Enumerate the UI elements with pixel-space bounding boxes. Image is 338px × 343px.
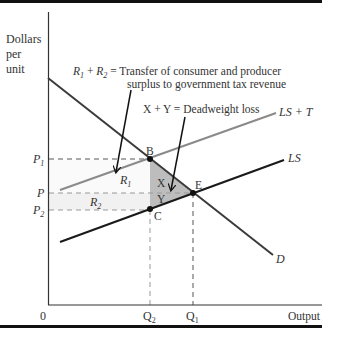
price-label-p2: P2: [32, 203, 44, 219]
y-axis-label-line3: unit: [6, 62, 25, 76]
x-axis-label: Output: [288, 310, 321, 323]
y-axis-label-line1: Dollars: [6, 32, 42, 46]
point-e-label: E: [195, 179, 202, 191]
transfer-arrow-icon: [116, 90, 131, 172]
origin-label: 0: [40, 309, 46, 323]
tax-incidence-diagram: Dollars per unit P1 P P2 0 Q2 Q1 Output …: [0, 0, 338, 343]
quantity-label-q2: Q2: [143, 309, 156, 325]
price-label-p: P: [36, 186, 45, 200]
bottom-border: [0, 325, 322, 328]
demand-label: D: [275, 252, 285, 266]
ls-plus-t-label: LS + T: [278, 105, 314, 119]
diagram-frame: Dollars per unit P1 P P2 0 Q2 Q1 Output …: [0, 0, 338, 343]
ls-label: LS: [287, 151, 301, 165]
quantity-label-q1: Q1: [186, 309, 199, 325]
point-c: [147, 206, 153, 212]
y-axis-label-line2: per: [6, 47, 21, 61]
transfer-annotation-line2: surplus to government tax revenue: [127, 78, 286, 91]
deadweight-annotation: X + Y = Deadweight loss: [143, 103, 260, 116]
point-c-label: C: [154, 210, 162, 222]
point-b-label: B: [146, 145, 154, 157]
top-border: [0, 0, 322, 3]
price-label-p1: P1: [32, 152, 44, 168]
region-x-label: X: [157, 177, 166, 189]
region-y-label: Y: [157, 193, 166, 205]
